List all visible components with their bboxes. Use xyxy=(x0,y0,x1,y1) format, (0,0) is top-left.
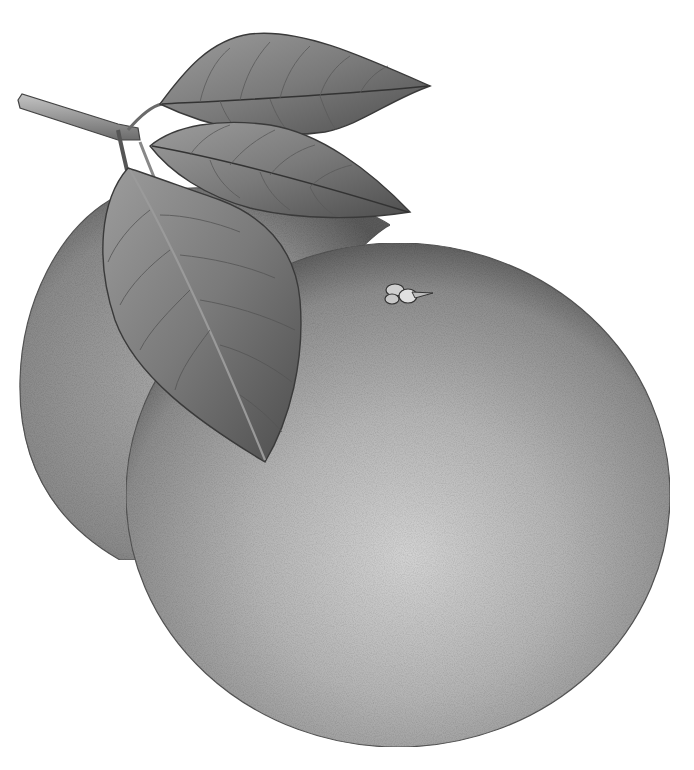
citrus-illustration xyxy=(0,0,694,770)
leaf-top xyxy=(160,33,430,134)
